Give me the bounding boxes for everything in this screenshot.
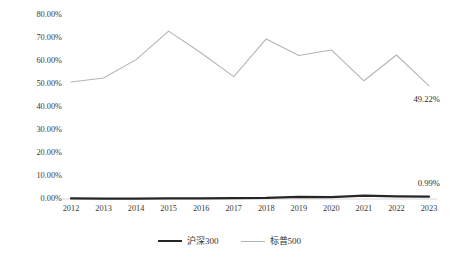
legend-item-sp500[interactable]: 标普500 (241, 236, 302, 247)
x-axis-tick-label: 2015 (160, 203, 177, 214)
legend-label-csi300: 沪深300 (187, 236, 219, 247)
x-axis-tick-label: 2012 (63, 203, 80, 214)
line-chart-plot-area (0, 0, 459, 257)
x-axis-tick-label: 2017 (225, 203, 242, 214)
x-axis-tick-label: 2022 (388, 203, 405, 214)
x-axis-tick-label: 2014 (128, 203, 145, 214)
series-line-sp500 (71, 31, 429, 86)
y-axis-tick-label: 50.00% (4, 79, 62, 89)
x-axis-tick-label: 2021 (356, 203, 373, 214)
y-axis-tick-label: 70.00% (4, 33, 62, 43)
x-axis-tick-labels: 2012201320142015201620172018201920202021… (0, 201, 459, 217)
y-axis-tick-label: 60.00% (4, 56, 62, 66)
legend-line-swatch-sp500 (241, 241, 265, 242)
x-axis-tick-label: 2020 (323, 203, 340, 214)
data-label-sp500: 49.22% (384, 94, 440, 105)
x-axis-tick-label: 2016 (193, 203, 210, 214)
legend-item-csi300[interactable]: 沪深300 (158, 236, 219, 247)
x-axis-tick-label: 2019 (291, 203, 308, 214)
chart-legend: 沪深300 标普500 (0, 232, 459, 250)
y-axis-tick-label: 20.00% (4, 148, 62, 158)
y-axis-tick-label: 10.00% (4, 171, 62, 181)
x-axis-tick-label: 2023 (421, 203, 438, 214)
x-axis-tick-label: 2018 (258, 203, 275, 214)
series-line-csi300 (71, 196, 429, 199)
data-label-csi300: 0.99% (384, 178, 440, 189)
chart-container: 80.00%70.00%60.00%50.00%40.00%30.00%20.0… (0, 0, 459, 257)
x-axis-tick-label: 2013 (95, 203, 112, 214)
legend-line-swatch-csi300 (158, 240, 182, 242)
legend-label-sp500: 标普500 (270, 236, 302, 247)
y-axis-tick-label: 30.00% (4, 125, 62, 135)
y-axis-tick-label: 80.00% (4, 10, 62, 20)
y-axis-tick-label: 40.00% (4, 102, 62, 112)
y-axis-tick-labels: 80.00%70.00%60.00%50.00%40.00%30.00%20.0… (4, 0, 62, 257)
